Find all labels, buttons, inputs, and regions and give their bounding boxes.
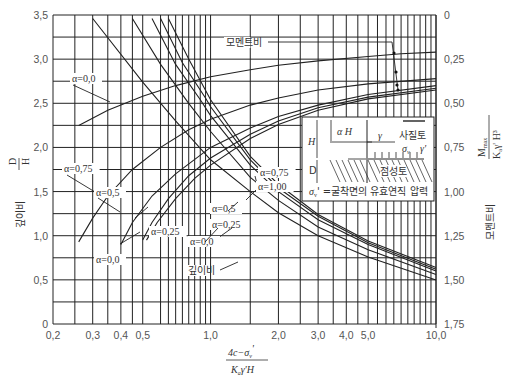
right-axis-den: Kaγ' H³ bbox=[491, 130, 503, 159]
marker-dot bbox=[396, 88, 399, 91]
marker-dot bbox=[394, 70, 397, 73]
annotation-label: α=0,0 bbox=[190, 236, 213, 247]
inset-H: H bbox=[307, 136, 316, 147]
x-tick-label: 0,3 bbox=[85, 329, 100, 341]
x-axis-label: 4c−σv' Kaγ'H bbox=[226, 343, 268, 376]
annotation-label: α=0,0 bbox=[96, 254, 119, 265]
marker-dot bbox=[395, 83, 398, 86]
y-right-tick-label: 1,00 bbox=[444, 186, 465, 198]
annotation-label: 모멘트비 bbox=[226, 37, 262, 48]
x-axis-den: Kaγ'H bbox=[230, 364, 255, 376]
y-right-tick-label: 1,75 bbox=[444, 318, 465, 330]
annotation-label: α=1,00 bbox=[258, 181, 286, 192]
marker-dot bbox=[392, 51, 395, 54]
annotation-leader bbox=[220, 262, 238, 270]
y-right-tick-label: 0,25 bbox=[444, 53, 465, 65]
inset-soil-bottom: 점성토 bbox=[380, 166, 407, 177]
right-axis-label: 모멘트비 bbox=[485, 204, 496, 240]
inset-caption: σv' =굴착면의 유효연직 압력 bbox=[309, 185, 428, 198]
left-axis-num: D bbox=[7, 158, 18, 165]
inset-gamma-prime: γ' bbox=[420, 143, 427, 154]
inset-diagram: H α H D γ 사질토 σv γ' 점성토 σv' =굴착면의 유효연직 압… bbox=[302, 117, 434, 201]
x-tick-label: 3,0 bbox=[311, 329, 326, 341]
y-left-tick-label: 0 bbox=[42, 318, 48, 330]
right-axis-korean: 모멘트비 bbox=[485, 204, 496, 240]
y-left-tick-label: 3,0 bbox=[33, 53, 48, 65]
x-tick-label: 0,4 bbox=[114, 329, 129, 341]
y-right-tick-label: 0,50 bbox=[444, 97, 465, 109]
design-chart: 0,20,30,40,51,02,03,04,05,010,000,51,01,… bbox=[0, 0, 507, 384]
left-axis-korean: 깊이비 bbox=[15, 201, 26, 228]
x-tick-label: 5,0 bbox=[361, 329, 376, 341]
annotation-label: α=0,25 bbox=[151, 226, 179, 237]
annotation-label: α=0,5 bbox=[96, 187, 119, 198]
y-left-tick-label: 1,5 bbox=[33, 186, 48, 198]
annotation-leader bbox=[73, 85, 110, 102]
right-axis-fraction: Mmax Kaγ' H³ bbox=[476, 115, 503, 159]
annotation-label: α=0,75 bbox=[64, 163, 92, 174]
annotation-label: α=0,5 bbox=[212, 203, 235, 214]
annotation-label: α=0,75 bbox=[260, 167, 288, 178]
x-tick-label: 10,0 bbox=[426, 329, 447, 341]
x-tick-label: 2,0 bbox=[271, 329, 286, 341]
left-axis-label: 깊이비 bbox=[15, 201, 26, 228]
inset-soil-top: 사질토 bbox=[399, 130, 426, 141]
y-left-tick-label: 3,5 bbox=[33, 9, 48, 21]
y-left-tick-label: 2,0 bbox=[33, 141, 48, 153]
x-tick-label: 0,5 bbox=[135, 329, 150, 341]
annotation-label: α=0,25 bbox=[212, 219, 240, 230]
y-right-tick-label: 0,75 bbox=[444, 141, 465, 153]
annotation-leader bbox=[135, 207, 148, 218]
x-tick-label: 0,2 bbox=[46, 329, 61, 341]
inset-D: D bbox=[309, 165, 317, 176]
x-tick-label: 1,0 bbox=[203, 329, 218, 341]
annotation-label: 깊이비 bbox=[188, 265, 215, 276]
right-axis-num: Mmax bbox=[476, 138, 488, 157]
y-left-tick-label: 1,0 bbox=[33, 230, 48, 242]
x-axis-num: 4c−σv' bbox=[228, 343, 255, 359]
y-right-tick-label: 1,25 bbox=[444, 230, 465, 242]
inset-aH: α H bbox=[337, 126, 353, 137]
y-right-tick-label: 0 bbox=[444, 9, 450, 21]
annotation-leader bbox=[120, 232, 140, 244]
y-left-tick-label: 2,5 bbox=[33, 97, 48, 109]
y-left-tick-label: 0,5 bbox=[33, 274, 48, 286]
annotation-label: α=0,0 bbox=[72, 73, 95, 84]
y-right-tick-label: 1,50 bbox=[444, 274, 465, 286]
left-axis-den: H bbox=[20, 158, 31, 165]
x-tick-label: 4,0 bbox=[339, 329, 354, 341]
